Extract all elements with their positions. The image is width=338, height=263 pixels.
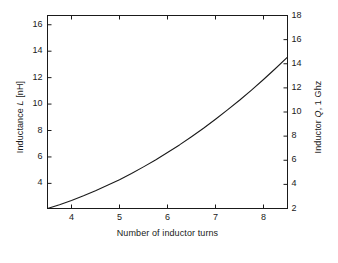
- inductance-curve: [48, 57, 288, 208]
- y-axis-left-title: Inductance L [nH]: [15, 57, 25, 177]
- y-tick-label-left: 16: [19, 19, 43, 29]
- y-tick-label-right: 10: [292, 106, 316, 116]
- x-tick-label: 8: [254, 212, 274, 222]
- y-tick-label-right: 16: [292, 34, 316, 44]
- x-tick-label: 6: [158, 212, 178, 222]
- figure-canvas: 45678 46810121416 24681012141618 Inducta…: [0, 0, 338, 263]
- y-tick-label-right: 14: [292, 58, 316, 68]
- y-axis-right-title-suffix: , 1 Ghz: [313, 81, 323, 111]
- y-axis-right-title: Inductor Q, 1 Ghz: [313, 57, 323, 177]
- x-tick-label: 4: [62, 212, 82, 222]
- x-axis-ticks: [72, 16, 264, 209]
- x-tick-label: 7: [206, 212, 226, 222]
- y-axis-right-title-symbol: Q: [313, 110, 323, 117]
- x-axis-title: Number of inductor turns: [47, 228, 288, 238]
- y-tick-label-left: 14: [19, 45, 43, 55]
- y-tick-label-right: 6: [292, 154, 316, 164]
- y-axis-left-title-prefix: Inductance: [15, 106, 25, 154]
- y-tick-label-left: 4: [19, 177, 43, 187]
- y-axis-left-ticks: [48, 25, 52, 184]
- y-tick-label-right: 8: [292, 130, 316, 140]
- y-axis-right-title-prefix: Inductor: [313, 117, 323, 153]
- y-tick-label-right: 2: [292, 203, 316, 213]
- y-axis-left-title-symbol: L: [15, 100, 25, 105]
- y-tick-label-right: 12: [292, 82, 316, 92]
- y-axis-right-ticks: [284, 16, 288, 209]
- y-tick-label-right: 18: [292, 10, 316, 20]
- chart-plot-area: [0, 0, 338, 263]
- x-tick-label: 5: [110, 212, 130, 222]
- y-tick-label-right: 4: [292, 178, 316, 188]
- y-axis-left-title-suffix: [nH]: [15, 81, 25, 101]
- plot-frame: [48, 16, 288, 209]
